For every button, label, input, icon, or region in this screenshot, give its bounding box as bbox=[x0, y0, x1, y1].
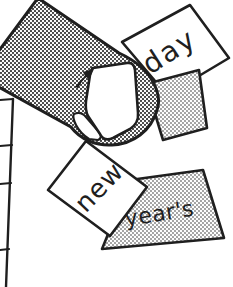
grid-line bbox=[0, 145, 12, 146]
grid-line bbox=[0, 183, 11, 184]
worksheet-illustration: year's new day bbox=[0, 0, 233, 287]
grid-line bbox=[0, 99, 13, 100]
grid-line bbox=[0, 249, 9, 250]
grid-vertical-line bbox=[6, 99, 13, 287]
thumb bbox=[0, 0, 159, 145]
table-grid-edge bbox=[0, 99, 13, 287]
new-years-day-cards-illustration: year's new day bbox=[0, 0, 233, 287]
